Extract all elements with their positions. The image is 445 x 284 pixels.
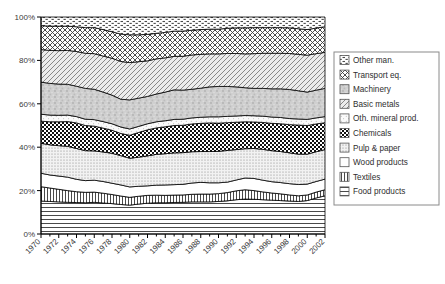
x-tick-label: 1970 xyxy=(23,237,42,256)
x-tick-label: 1972 xyxy=(41,237,60,256)
legend-swatch-oth-mineral-prod xyxy=(340,114,349,123)
y-tick-label: 100% xyxy=(15,13,35,22)
y-tick-label: 60% xyxy=(19,100,35,109)
y-tick-label: 40% xyxy=(19,143,35,152)
x-tick-label: 1984 xyxy=(148,237,167,256)
legend-swatch-chemicals xyxy=(340,129,349,138)
chart-legend[interactable]: Other man.Transport eq.MachineryBasic me… xyxy=(334,52,439,205)
legend-label: Machinery xyxy=(353,85,392,94)
legend-label: Textiles xyxy=(353,173,380,182)
x-tick-label: 1978 xyxy=(94,237,113,256)
x-tick-label: 1974 xyxy=(59,237,78,256)
legend-swatch-other-man xyxy=(340,56,349,65)
legend-swatch-food-products xyxy=(340,187,349,196)
x-tick-label: 1992 xyxy=(219,237,238,256)
legend-label: Transport eq. xyxy=(353,71,401,80)
chart-canvas: 0%20%40%60%80%100% 197019721974197619781… xyxy=(0,0,445,284)
x-tick-label: 1990 xyxy=(201,237,220,256)
legend-label: Basic metals xyxy=(353,100,399,109)
y-tick-label: 20% xyxy=(19,187,35,196)
area-series-group xyxy=(41,17,325,234)
x-axis-ticks xyxy=(41,234,325,238)
legend-swatch-transport-eq xyxy=(340,70,349,79)
legend-swatch-pulp-paper xyxy=(340,143,349,152)
y-tick-label: 80% xyxy=(19,56,35,65)
legend-label: Chemicals xyxy=(353,129,391,138)
x-tick-label: 1994 xyxy=(236,237,255,256)
x-axis-labels: 1970197219741976197819801982198419861988… xyxy=(23,237,326,256)
legend-swatch-textiles xyxy=(340,172,349,181)
y-tick-label: 0% xyxy=(23,230,35,239)
legend-label: Food products xyxy=(353,187,405,196)
x-tick-label: 1986 xyxy=(165,237,184,256)
x-tick-label: 2002 xyxy=(307,237,326,256)
x-tick-label: 1976 xyxy=(77,237,96,256)
legend-swatch-basic-metals xyxy=(340,99,349,108)
x-tick-label: 1998 xyxy=(272,237,291,256)
x-tick-label: 1982 xyxy=(130,237,149,256)
legend-swatch-wood-products xyxy=(340,158,349,167)
x-tick-label: 2000 xyxy=(290,237,309,256)
x-tick-label: 1988 xyxy=(183,237,202,256)
stacked-area-chart: 0%20%40%60%80%100% 197019721974197619781… xyxy=(0,0,445,284)
legend-label: Pulp & paper xyxy=(353,144,401,153)
legend-label: Other man. xyxy=(353,56,394,65)
x-tick-label: 1996 xyxy=(254,237,273,256)
legend-label: Oth. mineral prod. xyxy=(353,114,419,123)
legend-swatch-machinery xyxy=(340,85,349,94)
x-tick-label: 1980 xyxy=(112,237,131,256)
y-axis-ticks: 0%20%40%60%80%100% xyxy=(15,13,41,239)
legend-label: Wood products xyxy=(353,158,408,167)
